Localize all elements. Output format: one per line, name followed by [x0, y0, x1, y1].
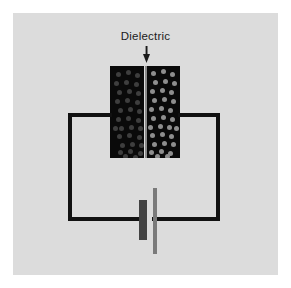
charge-dot-positive: [170, 117, 175, 122]
charge-dot-positive: [161, 115, 166, 120]
charge-dot-positive: [158, 124, 163, 129]
charge-dot-negative: [136, 91, 141, 96]
capacitor-plate-right: [147, 66, 180, 158]
charge-dot-positive: [169, 134, 174, 139]
charge-dot-positive: [160, 88, 165, 93]
charge-dot-positive: [152, 98, 157, 103]
charge-dot-positive: [150, 133, 155, 138]
charge-dot-negative: [126, 116, 131, 121]
charge-dot-positive: [149, 107, 154, 112]
charge-dot-negative: [118, 108, 123, 113]
charge-dot-negative: [139, 143, 144, 148]
charge-dot-negative: [125, 98, 130, 103]
charge-dot-negative: [135, 73, 140, 78]
charge-dot-negative: [138, 151, 143, 156]
charge-dot-negative: [123, 154, 128, 158]
charge-dot-positive: [160, 132, 165, 137]
dielectric-slab: [145, 66, 147, 158]
charge-dot-negative: [114, 81, 119, 86]
charge-dot-positive: [171, 99, 176, 104]
charge-dot-positive: [171, 142, 176, 147]
charge-dot-positive: [172, 81, 177, 86]
charge-dot-positive: [167, 125, 172, 130]
charge-dot-positive: [169, 90, 174, 95]
charge-dot-positive: [163, 79, 168, 84]
charge-dot-negative: [119, 126, 124, 131]
charge-dot-positive: [168, 108, 173, 113]
charge-dot-negative: [127, 133, 132, 138]
wire-top-left: [68, 113, 112, 117]
charge-dot-negative: [134, 82, 139, 87]
charge-dot-positive: [148, 125, 153, 130]
charge-dot-negative: [128, 149, 133, 154]
capacitor-dielectric-figure: Dielectric: [0, 0, 291, 288]
capacitor-plate-left: [110, 66, 144, 158]
charge-dot-positive: [151, 116, 156, 121]
charge-dot-negative: [129, 125, 134, 130]
wire-top-right: [178, 113, 220, 117]
charge-dot-negative: [124, 80, 129, 85]
battery-positive-terminal: [153, 188, 157, 254]
dielectric-label: Dielectric: [0, 30, 291, 42]
charge-dot-positive: [161, 69, 166, 74]
charge-dot-negative: [128, 107, 133, 112]
charge-dot-positive: [165, 154, 170, 158]
charge-dot-negative: [113, 126, 118, 131]
battery-negative-terminal: [139, 200, 147, 240]
charge-dot-negative: [138, 126, 143, 131]
charge-dot-positive: [151, 71, 156, 76]
charge-dot-positive: [153, 80, 158, 85]
charge-dot-positive: [159, 106, 164, 111]
charge-dot-positive: [155, 154, 160, 158]
charge-dot-positive: [162, 141, 167, 146]
parallel-plate-capacitor: [110, 66, 180, 158]
charge-dot-positive: [162, 97, 167, 102]
charge-dot-negative: [135, 100, 140, 105]
wire-left: [68, 113, 72, 221]
charge-dot-negative: [126, 70, 131, 75]
charge-dot-negative: [127, 89, 132, 94]
charge-dot-positive: [170, 72, 175, 77]
charge-dot-negative: [133, 155, 138, 158]
charge-dot-negative: [137, 135, 142, 140]
wire-right: [216, 113, 220, 221]
charge-dot-negative: [116, 117, 121, 122]
charge-dot-positive: [150, 89, 155, 94]
charge-dot-negative: [116, 72, 121, 77]
charge-dot-positive: [152, 142, 157, 147]
wire-bottom-right: [152, 217, 220, 221]
charge-dot-negative: [115, 99, 120, 104]
charge-dot-positive: [149, 150, 154, 155]
charge-dot-negative: [117, 90, 122, 95]
charge-dot-positive: [159, 149, 164, 154]
charge-dot-negative: [120, 143, 125, 148]
charge-dot-negative: [117, 134, 122, 139]
charge-dot-negative: [136, 118, 141, 123]
charge-dot-negative: [137, 109, 142, 114]
wire-bottom-left: [68, 217, 142, 221]
charge-dot-negative: [118, 150, 123, 155]
charge-dot-positive: [174, 126, 179, 131]
charge-dot-negative: [130, 142, 135, 147]
down-arrow-icon: [143, 46, 150, 63]
